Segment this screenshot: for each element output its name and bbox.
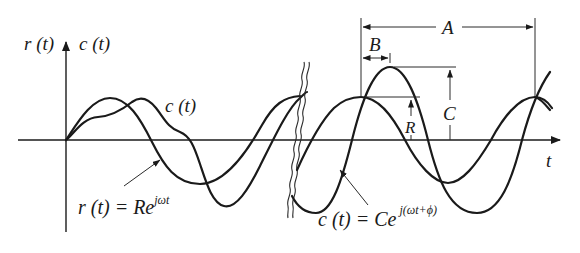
dimension-a-period: A xyxy=(361,17,535,97)
y-axis-label-c: c (t) xyxy=(79,33,110,55)
output-equation: c (t) = Cej(ωt+ϕ) xyxy=(318,203,437,231)
input-equation: r (t) = Rejωt xyxy=(78,193,170,219)
input-equation-lhs: r (t) = Re xyxy=(78,196,154,219)
sinusoid-diagram: r (t) c (t) t A B C R xyxy=(0,0,580,253)
label-a: A xyxy=(440,17,454,38)
input-equation-exponent: jωt xyxy=(152,193,170,207)
label-b: B xyxy=(369,34,381,55)
input-leader-arrow xyxy=(124,160,160,186)
x-axis-label-t: t xyxy=(546,150,552,171)
dimension-b-phase-shift: B xyxy=(363,34,390,63)
label-c: C xyxy=(443,103,456,124)
output-curve-label: c (t) xyxy=(165,95,196,117)
label-r: R xyxy=(404,118,416,137)
output-equation-exponent: j(ωt+ϕ) xyxy=(397,203,436,217)
y-axis-label-r: r (t) xyxy=(24,33,54,55)
output-leader-arrow xyxy=(340,170,368,205)
input-equation-annotation: r (t) = Rejωt xyxy=(78,160,170,219)
output-equation-lhs: c (t) = Ce xyxy=(318,208,397,231)
output-equation-annotation: c (t) = Cej(ωt+ϕ) xyxy=(318,170,437,231)
